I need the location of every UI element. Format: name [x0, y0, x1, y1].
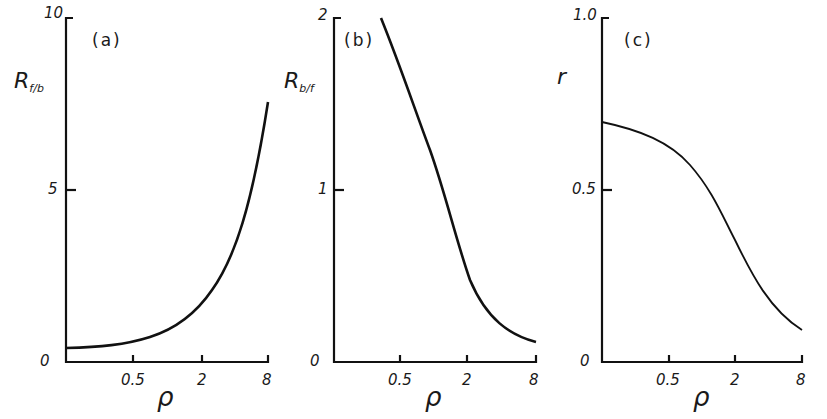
ytick-label: 0.5 — [572, 180, 596, 198]
x-axis-label: ρ — [693, 382, 710, 412]
ytick-label: 1.0 — [573, 6, 597, 24]
panel-c-plot — [0, 0, 827, 419]
panel-b: 2 1 0 0.5 2 8 (b) Rb/f ρ 1.0 0.5 0 0.5 2… — [0, 0, 827, 419]
y-axis-label: r — [557, 64, 566, 91]
panel-c-axes — [602, 18, 802, 362]
xtick-label: 0.5 — [656, 371, 680, 389]
ytick-label: 0 — [580, 352, 590, 370]
xtick-label: 2 — [730, 371, 740, 389]
panel-c-curve — [602, 122, 802, 330]
xtick-label: 8 — [796, 371, 806, 389]
panel-tag: (c) — [624, 30, 653, 50]
